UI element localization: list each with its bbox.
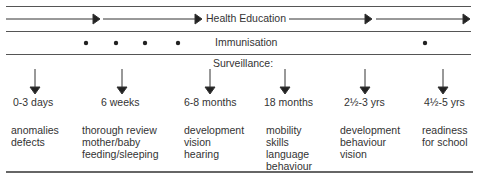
stage-age-3: 18 months [264,96,313,108]
stage-age-2: 6-8 months [184,96,237,108]
surveillance-label: Surveillance: [210,57,276,69]
stage-age-1: 6 weeks [101,96,140,108]
stage-age-5: 4½-5 yrs [424,96,465,108]
immunisation-label: Immunisation [212,36,280,48]
stage-items-3: mobility skills language behaviour [266,124,312,172]
stage-age-4: 2½-3 yrs [344,96,385,108]
stage-items-2: development vision hearing [184,124,244,160]
stage-item: behaviour [266,160,312,172]
stage-item: for school [422,136,468,148]
health-education-label: Health Education [203,12,289,24]
stage-item: thorough review [82,124,158,136]
stage-item: mobility [266,124,312,136]
stage-items-4: development behaviour vision [340,124,400,160]
stage-item: defects [11,136,59,148]
stage-item: feeding/sleeping [82,148,158,160]
stage-item: vision [340,148,400,160]
stage-item: skills [266,136,312,148]
stage-items-0: anomalies defects [11,124,59,148]
stage-item: vision [184,136,244,148]
stage-item: hearing [184,148,244,160]
stage-item: anomalies [11,124,59,136]
stage-items-5: readiness for school [422,124,468,148]
stage-age-0: 0-3 days [13,96,53,108]
surveillance-arrows [30,69,448,94]
stage-item: readiness [422,124,468,136]
stage-item: development [340,124,400,136]
stage-item: language [266,148,312,160]
stage-item: behaviour [340,136,400,148]
stage-item: mother/baby [82,136,158,148]
stage-items-1: thorough review mother/baby feeding/slee… [82,124,158,160]
stage-item: development [184,124,244,136]
